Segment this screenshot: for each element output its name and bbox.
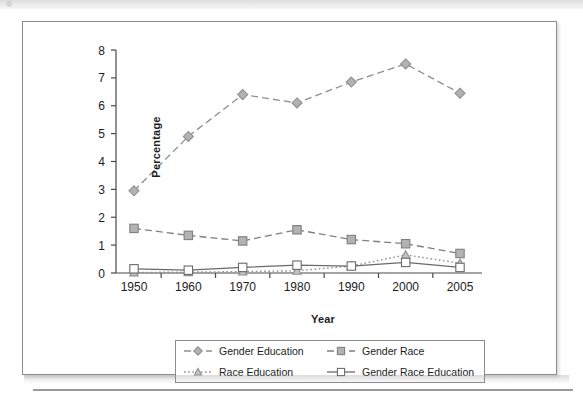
diamond-marker: [183, 345, 213, 357]
svg-text:3: 3: [98, 183, 105, 197]
svg-text:7: 7: [98, 71, 105, 85]
svg-text:4: 4: [98, 155, 105, 169]
scan-artifact-bottom-rule: [33, 389, 573, 391]
svg-text:2: 2: [98, 211, 105, 225]
svg-text:1: 1: [98, 239, 105, 253]
svg-text:6: 6: [98, 99, 105, 113]
filled-square-marker: [326, 345, 356, 357]
x-axis-title: Year: [153, 313, 493, 325]
figure-frame: 0123456781950196019701980199020002005 Pe…: [22, 21, 557, 375]
svg-text:1980: 1980: [284, 280, 311, 294]
svg-text:5: 5: [98, 127, 105, 141]
scan-artifact-bottom-shadow: [24, 375, 569, 384]
scan-artifact-top-band: [0, 0, 583, 9]
svg-text:0: 0: [98, 267, 105, 281]
y-axis-title: Percentage: [150, 92, 162, 202]
svg-text:1950: 1950: [121, 280, 148, 294]
svg-text:1960: 1960: [175, 280, 202, 294]
svg-text:1990: 1990: [338, 280, 365, 294]
legend-entry-gender-race: Gender Race: [319, 341, 486, 362]
legend-entry-gender-education: Gender Education: [176, 341, 319, 362]
svg-text:1970: 1970: [229, 280, 256, 294]
svg-text:8: 8: [98, 44, 105, 58]
svg-text:2005: 2005: [447, 280, 474, 294]
legend-label: Gender Race: [362, 345, 424, 357]
legend-label: Gender Education: [219, 345, 304, 357]
svg-text:2000: 2000: [392, 280, 419, 294]
